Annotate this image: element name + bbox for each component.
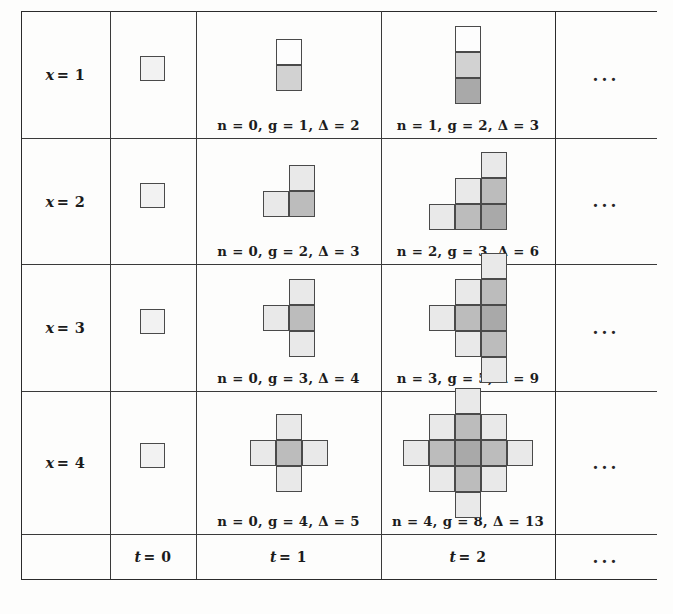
shape-square bbox=[429, 440, 455, 466]
col-label-t0-value: = 0 bbox=[144, 549, 172, 565]
shape-bounds bbox=[429, 253, 507, 383]
cell-x1-t0 bbox=[110, 11, 196, 138]
caption-x1-t2: n = 1, g = 2, Δ = 3 bbox=[397, 118, 539, 138]
caption-x2-t1: n = 0, g = 2, Δ = 3 bbox=[217, 244, 359, 264]
seed-square-x1 bbox=[140, 56, 165, 81]
shape-bounds bbox=[276, 39, 302, 91]
shape-square bbox=[455, 331, 481, 357]
shape-square bbox=[276, 466, 302, 492]
shape-square bbox=[455, 78, 481, 104]
col-label-more: ... bbox=[555, 534, 657, 579]
shape-square bbox=[289, 279, 315, 305]
shape-square bbox=[429, 204, 455, 230]
shape-square bbox=[289, 191, 315, 217]
shape-square bbox=[455, 440, 481, 466]
shape-bounds bbox=[403, 388, 533, 518]
seed-square-x4 bbox=[140, 443, 165, 468]
cell-x3-more: ... bbox=[555, 264, 657, 391]
shape-square bbox=[481, 357, 507, 383]
shape-square bbox=[276, 414, 302, 440]
shape-bounds bbox=[429, 152, 507, 230]
shape-square bbox=[507, 440, 533, 466]
shape-square bbox=[481, 279, 507, 305]
rule-bottom bbox=[21, 579, 657, 580]
col-label-t1-sym: t bbox=[270, 549, 279, 565]
row-label-x3-value: = 3 bbox=[57, 319, 86, 336]
row-label-x1-sym: x bbox=[46, 66, 57, 83]
cell-x2-t0 bbox=[110, 138, 196, 264]
row-label-x4-value: = 4 bbox=[57, 454, 86, 471]
shape-square bbox=[481, 331, 507, 357]
shape-square bbox=[302, 440, 328, 466]
row-label-x4-sym: x bbox=[46, 454, 57, 471]
growth-table-figure: x = 1 x = 2 x = 3 x = 4 n bbox=[0, 0, 673, 614]
row-label-x2-sym: x bbox=[46, 193, 57, 210]
row-label-x2: x = 2 bbox=[21, 138, 110, 264]
shape-square bbox=[481, 178, 507, 204]
col-label-t0: t = 0 bbox=[110, 534, 196, 579]
shape-x2-t2 bbox=[381, 138, 555, 244]
cell-x1-more: ... bbox=[555, 11, 657, 138]
cell-x1-t1: n = 0, g = 1, Δ = 2 bbox=[196, 11, 381, 138]
shape-square bbox=[276, 65, 302, 91]
cell-x2-t1: n = 0, g = 2, Δ = 3 bbox=[196, 138, 381, 264]
shape-square bbox=[455, 279, 481, 305]
caption-x1-t1: n = 0, g = 1, Δ = 2 bbox=[217, 118, 359, 138]
shape-square bbox=[250, 440, 276, 466]
cell-x3-t1: n = 0, g = 3, Δ = 4 bbox=[196, 264, 381, 391]
cell-x4-t0 bbox=[110, 391, 196, 534]
shape-square bbox=[455, 414, 481, 440]
cell-x2-more: ... bbox=[555, 138, 657, 264]
seed-square-x3 bbox=[140, 309, 165, 334]
shape-square bbox=[455, 466, 481, 492]
row-label-x2-value: = 2 bbox=[57, 193, 86, 210]
shape-bounds bbox=[263, 279, 315, 357]
shape-x1-t2 bbox=[381, 11, 555, 118]
seed-square-x2 bbox=[140, 183, 165, 208]
shape-square bbox=[263, 305, 289, 331]
shape-square bbox=[289, 305, 315, 331]
cell-x2-t2: n = 2, g = 3, Δ = 6 bbox=[381, 138, 555, 264]
col-label-t2: t = 2 bbox=[381, 534, 555, 579]
shape-square bbox=[481, 466, 507, 492]
col-label-t1-value: = 1 bbox=[279, 549, 307, 565]
cell-x4-more: ... bbox=[555, 391, 657, 534]
shape-bounds bbox=[263, 165, 315, 217]
shape-x3-t2 bbox=[381, 264, 555, 371]
shape-square bbox=[263, 191, 289, 217]
shape-x4-t2 bbox=[381, 391, 555, 514]
table-grid: x = 1 x = 2 x = 3 x = 4 n bbox=[21, 11, 657, 579]
row-label-x1: x = 1 bbox=[21, 11, 110, 138]
footer-corner bbox=[21, 534, 110, 579]
shape-square bbox=[455, 52, 481, 78]
shape-square bbox=[455, 492, 481, 518]
shape-bounds bbox=[250, 414, 328, 492]
shape-square bbox=[455, 204, 481, 230]
cell-x3-t2: n = 3, g = 5, Δ = 9 bbox=[381, 264, 555, 391]
cell-x4-t1: n = 0, g = 4, Δ = 5 bbox=[196, 391, 381, 534]
shape-x4-t1 bbox=[196, 391, 381, 514]
shape-bounds bbox=[455, 26, 481, 104]
caption-x4-t1: n = 0, g = 4, Δ = 5 bbox=[217, 514, 359, 534]
shape-square bbox=[429, 414, 455, 440]
shape-square bbox=[455, 178, 481, 204]
caption-x3-t1: n = 0, g = 3, Δ = 4 bbox=[217, 371, 359, 391]
shape-square bbox=[276, 440, 302, 466]
shape-square bbox=[481, 152, 507, 178]
row-label-x3-sym: x bbox=[46, 319, 57, 336]
shape-square bbox=[455, 388, 481, 414]
row-label-x3: x = 3 bbox=[21, 264, 110, 391]
shape-square bbox=[455, 26, 481, 52]
shape-square bbox=[481, 440, 507, 466]
cell-x4-t2: n = 4, g = 8, Δ = 13 bbox=[381, 391, 555, 534]
shape-square bbox=[481, 305, 507, 331]
shape-square bbox=[429, 305, 455, 331]
shape-square bbox=[403, 440, 429, 466]
shape-square bbox=[289, 165, 315, 191]
col-label-t0-sym: t bbox=[135, 549, 144, 565]
row-label-x4: x = 4 bbox=[21, 391, 110, 534]
shape-square bbox=[429, 466, 455, 492]
cell-x1-t2: n = 1, g = 2, Δ = 3 bbox=[381, 11, 555, 138]
col-label-t1: t = 1 bbox=[196, 534, 381, 579]
shape-square bbox=[481, 414, 507, 440]
